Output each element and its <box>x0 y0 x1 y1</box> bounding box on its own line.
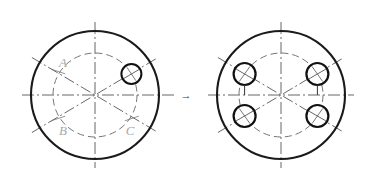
technical-drawing-figure: A B C → <box>0 0 372 189</box>
right-hole-1 <box>306 63 328 85</box>
left-point-b-tick <box>51 116 65 121</box>
label-point-a: A <box>58 55 67 70</box>
right-hole-3 <box>234 105 256 127</box>
right-figure <box>208 22 354 168</box>
transition-arrow-glyph: → <box>181 89 192 101</box>
left-figure: A B C <box>22 22 175 168</box>
right-hole-4 <box>306 105 328 127</box>
drawing-canvas: A B C → <box>0 0 372 189</box>
transition-arrow: → <box>181 89 192 101</box>
label-point-b: B <box>59 123 67 138</box>
left-hole-1 <box>121 64 141 84</box>
label-point-c: C <box>126 123 135 138</box>
right-hole-2 <box>234 63 256 85</box>
